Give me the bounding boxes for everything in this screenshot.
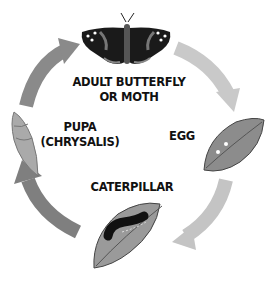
life-cycle-diagram: ADULT BUTTERFLY OR MOTH EGG CATERPILLAR … bbox=[0, 0, 273, 282]
leaf-with-eggs-icon bbox=[204, 118, 264, 171]
label-egg: EGG bbox=[164, 129, 200, 144]
arrow-egg-to-caterpillar bbox=[172, 180, 226, 250]
label-pupa: PUPA (CHRYSALIS) bbox=[40, 120, 120, 150]
label-caterpillar: CATERPILLAR bbox=[84, 180, 180, 195]
caterpillar-on-leaf-icon bbox=[94, 203, 162, 268]
butterfly-icon bbox=[82, 13, 171, 64]
arrow-caterpillar-to-pupa bbox=[14, 160, 78, 232]
label-adult: ADULT BUTTERFLY OR MOTH bbox=[64, 75, 194, 105]
